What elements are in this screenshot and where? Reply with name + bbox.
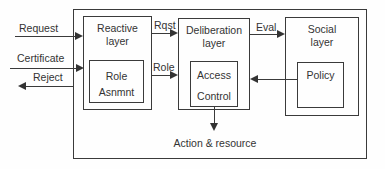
eval-arrowhead [277, 30, 285, 38]
rqst-arrowhead [170, 29, 178, 37]
reactive-layer-title-line2: layer [84, 35, 151, 48]
eval-label: Eval [256, 21, 276, 33]
action-arrow-line [214, 107, 215, 123]
reject-arrowhead [18, 82, 26, 90]
policy-return-arrow-line [258, 79, 297, 80]
request-arrow-line [15, 36, 76, 37]
role-assignment-box: Role Asnmnt [89, 60, 144, 103]
role-assignment-label-line2: Asnmnt [90, 84, 143, 100]
diagram-canvas: Reactive layer Role Asnmnt Deliberation … [0, 0, 385, 169]
access-control-label-line2: Control [191, 86, 237, 107]
certificate-arrow-line [10, 68, 76, 69]
access-control-label: Access Control [191, 62, 237, 107]
deliberation-layer-title: Deliberation layer [179, 19, 249, 50]
role-arrowhead [170, 71, 178, 79]
action-resource-label: Action & resource [170, 137, 260, 149]
deliberation-layer-title-line2: layer [179, 37, 249, 50]
deliberation-layer-box: Deliberation layer Access Control [178, 18, 250, 110]
policy-label: Policy [298, 63, 343, 81]
eval-arrow-line [250, 34, 277, 35]
action-arrowhead [210, 123, 218, 131]
role-assignment-label: Role Asnmnt [90, 61, 143, 100]
request-arrowhead [75, 32, 83, 40]
policy-box: Policy [297, 62, 344, 108]
reject-label: Reject [33, 71, 63, 83]
deliberation-layer-title-line1: Deliberation [179, 24, 249, 37]
access-control-box: Access Control [190, 61, 238, 107]
policy-return-arrowhead [250, 75, 258, 83]
role-arrow-line [152, 75, 170, 76]
access-control-label-line1: Access [191, 65, 237, 86]
certificate-label: Certificate [17, 52, 64, 64]
social-layer-title-line2: layer [286, 36, 358, 49]
certificate-arrowhead [76, 64, 84, 72]
social-layer-title: Social layer [286, 18, 358, 49]
social-layer-box: Social layer Policy [285, 17, 359, 116]
reactive-layer-title-line1: Reactive [84, 22, 151, 35]
request-label: Request [19, 22, 58, 34]
social-layer-title-line1: Social [286, 23, 358, 36]
reactive-layer-title: Reactive layer [84, 17, 151, 48]
rqst-arrow-line [152, 33, 170, 34]
role-assignment-label-line1: Role [90, 68, 143, 84]
reactive-layer-box: Reactive layer Role Asnmnt [83, 16, 152, 110]
reject-arrow-line [26, 86, 74, 87]
